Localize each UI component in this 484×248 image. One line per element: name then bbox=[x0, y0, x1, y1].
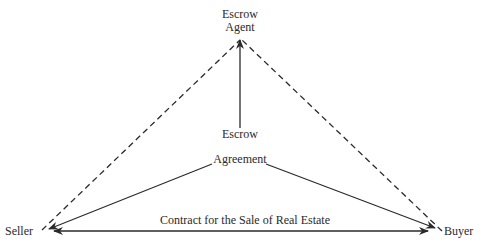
label-contract: Contract for the Sale of Real Estate bbox=[140, 214, 350, 227]
label-escrow: Escrow bbox=[210, 128, 270, 141]
escrow-agent-line2: Agent bbox=[212, 21, 268, 34]
node-seller: Seller bbox=[5, 225, 33, 238]
dashed-line-buyer-agent bbox=[242, 40, 442, 231]
label-agreement: Agreement bbox=[200, 153, 280, 166]
diagram-canvas bbox=[0, 0, 484, 248]
node-escrow-agent: Escrow Agent bbox=[212, 8, 268, 34]
node-buyer: Buyer bbox=[444, 225, 473, 238]
